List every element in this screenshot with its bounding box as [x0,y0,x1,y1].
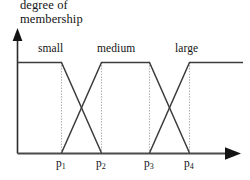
x-tick-label-p4: p4 [184,157,194,169]
x-tick-p1-subscript: 1 [62,162,66,171]
y-axis-title: degree of membership [20,0,83,26]
x-tick-label-p2: p2 [96,157,106,169]
x-axis-arrowhead-icon [225,147,241,159]
x-axis [18,147,242,159]
x-tick-p4-subscript: 4 [190,162,194,171]
set-label-medium: medium [97,42,135,54]
membership-curve-large [150,63,244,154]
x-tick-p3-subscript: 3 [150,162,154,171]
membership-curve-small [18,63,102,154]
y-axis [13,28,23,154]
x-tick-p4-base: p [184,157,190,169]
fuzzy-membership-figure: degree of membership small medium large … [0,0,250,180]
x-tick-p3-base: p [144,157,150,169]
y-axis-arrowhead-icon [13,28,23,41]
x-tick-label-p1: p1 [56,157,66,169]
x-tick-p2-base: p [96,157,102,169]
set-label-small: small [38,42,63,54]
set-label-large: large [175,42,198,54]
x-tick-p2-subscript: 2 [102,162,106,171]
x-tick-p1-base: p [56,157,62,169]
membership-chart-svg [0,0,250,180]
x-tick-label-p3: p3 [144,157,154,169]
